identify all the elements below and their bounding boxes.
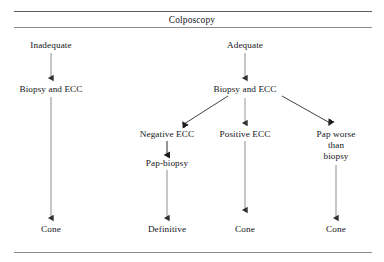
arrow-biopsy-to-negative-ecc	[184, 96, 228, 124]
node-pap-worse-line-2: than	[304, 140, 368, 151]
node-pap-worse-line-1: Pap worse	[304, 129, 368, 140]
arrow-biopsy-to-pap-worse	[282, 96, 330, 123]
bottom-rule	[14, 252, 372, 253]
node-cone-left: Cone	[41, 224, 61, 235]
node-cone-right: Cone	[326, 224, 346, 235]
top-rule	[14, 11, 372, 12]
node-biopsy-and-ecc-right: Biopsy and ECC	[213, 84, 276, 95]
flowchart-figure: Colposcopy Inad	[0, 0, 384, 262]
node-pap-biopsy: Pap-biopsy	[146, 158, 188, 169]
node-negative-ecc: Negative ECC	[140, 129, 195, 140]
node-pap-worse-than-biopsy: Pap worse than biopsy	[304, 129, 368, 162]
node-definitive: Definitive	[148, 224, 186, 235]
node-inadequate: Inadequate	[30, 40, 71, 51]
node-cone-middle: Cone	[235, 224, 255, 235]
node-adequate: Adequate	[227, 40, 263, 51]
figure-title-text: Colposcopy	[169, 15, 215, 25]
node-positive-ecc: Positive ECC	[220, 129, 271, 140]
node-pap-worse-line-3: biopsy	[304, 151, 368, 162]
title-underline-rule	[14, 27, 372, 28]
figure-title: Colposcopy	[0, 14, 384, 26]
node-biopsy-and-ecc-left: Biopsy and ECC	[19, 84, 82, 95]
